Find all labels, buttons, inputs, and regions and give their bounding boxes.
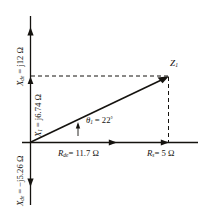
label-x-de-negative: Xde = −j5.26 Ω <box>16 156 26 206</box>
reactance-down-arrow-marker <box>27 179 33 188</box>
rs-arrow-marker <box>161 140 169 146</box>
label-x-de-negative-subscript: de <box>19 196 25 201</box>
x1-arrow-marker <box>28 77 34 85</box>
label-z-1-subscript: 1 <box>175 62 178 68</box>
rde-arrow-marker <box>109 140 117 146</box>
z1-vector-arrowhead <box>158 76 170 83</box>
label-theta-1-value: = 22 <box>95 115 111 125</box>
label-x-1-subscript: 1 <box>37 129 43 132</box>
label-theta-1-subscript: 1 <box>90 119 93 125</box>
reactance-up-arrow-marker <box>27 27 33 36</box>
label-x-de-positive-symbol: X <box>15 81 25 86</box>
label-z-1: Z1 <box>170 59 178 69</box>
theta-angle-arrowhead <box>76 122 80 129</box>
label-theta-1: θ1 = 22° <box>86 116 113 126</box>
label-x-de-positive-value: = j12 Ω <box>15 47 25 74</box>
label-x-de-positive: Xde = j12 Ω <box>16 47 26 86</box>
label-x-de-negative-value: = −j5.26 Ω <box>15 156 25 194</box>
label-x-1-value: = j6.74 Ω <box>33 94 43 127</box>
z1-phasor-vector <box>31 79 165 143</box>
label-r-de-value: = 11.7 Ω <box>68 148 99 158</box>
label-x-de-negative-symbol: X <box>15 201 25 206</box>
label-x-de-positive-subscript: de <box>19 76 25 81</box>
label-theta-1-degree: ° <box>110 116 112 122</box>
label-r-s: Rs= 5 Ω <box>147 149 174 159</box>
label-x-1-symbol: X <box>33 132 43 137</box>
phasor-diagram-canvas <box>0 0 205 218</box>
label-r-de: Rde= 11.7 Ω <box>58 149 99 159</box>
impedance-phasor-figure: Xde = j12 Ω X1 = j6.74 Ω Xde = −j5.26 Ω … <box>0 0 205 218</box>
label-x-1: X1 = j6.74 Ω <box>34 94 44 137</box>
label-r-s-value: = 5 Ω <box>154 148 174 158</box>
